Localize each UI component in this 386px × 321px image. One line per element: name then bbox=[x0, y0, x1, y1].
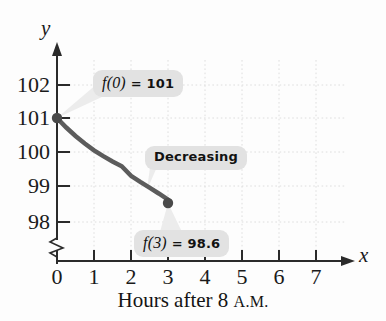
x-tick-label-4: 4 bbox=[193, 266, 217, 288]
y-tick-label-98: 98 bbox=[4, 211, 50, 233]
y-tick-label-100: 100 bbox=[4, 141, 50, 163]
y-tick-label-102: 102 bbox=[4, 74, 50, 96]
x-tick-label-7: 7 bbox=[304, 266, 328, 288]
y-axis-ticks bbox=[57, 85, 70, 222]
annotation-decreasing: Decreasing bbox=[145, 146, 247, 170]
x-axis-caption: Hours after 8 A.M. bbox=[0, 290, 386, 311]
annotation-f0-value: = 101 bbox=[126, 76, 174, 91]
x-axis-label: x bbox=[359, 245, 368, 266]
x-tick-label-2: 2 bbox=[119, 266, 143, 288]
annotation-f0: f(0) = 101 bbox=[93, 70, 183, 97]
annotation-f3: f(3) = 98.6 bbox=[134, 230, 229, 257]
x-tick-label-0: 0 bbox=[45, 266, 69, 288]
x-tick-label-6: 6 bbox=[267, 266, 291, 288]
annotation-f0-function: f(0) bbox=[102, 74, 126, 91]
x-axis-caption-prefix: Hours after 8 bbox=[117, 288, 233, 312]
data-point-f3 bbox=[163, 198, 173, 208]
y-axis-label: y bbox=[41, 18, 50, 39]
leader-f3 bbox=[160, 203, 182, 232]
x-axis-arrowhead bbox=[341, 256, 355, 266]
y-axis-arrowhead bbox=[52, 42, 62, 56]
annotation-f3-value: = 98.6 bbox=[167, 236, 220, 251]
annotation-decreasing-text: Decreasing bbox=[154, 149, 238, 164]
x-tick-label-1: 1 bbox=[82, 266, 106, 288]
x-axis-caption-smallcaps: A.M. bbox=[234, 293, 269, 310]
data-point-f0 bbox=[52, 113, 62, 123]
x-tick-label-3: 3 bbox=[156, 266, 180, 288]
figure-chart-decreasing-function: y x 102 101 100 99 98 0 1 2 3 4 5 6 7 f(… bbox=[0, 0, 386, 321]
y-tick-label-99: 99 bbox=[4, 175, 50, 197]
x-tick-label-5: 5 bbox=[230, 266, 254, 288]
y-tick-label-101: 101 bbox=[4, 107, 50, 129]
annotation-f3-function: f(3) bbox=[143, 234, 167, 251]
